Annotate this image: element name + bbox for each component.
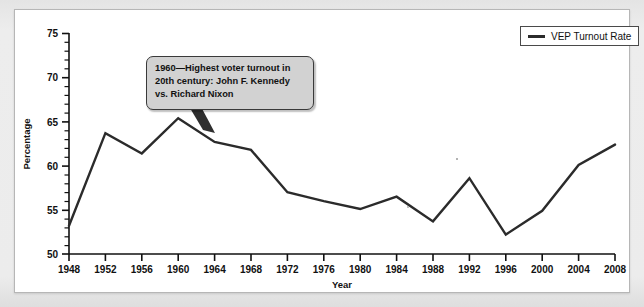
x-tick-label: 1980	[349, 264, 372, 275]
chart-legend: VEP Turnout Rate	[520, 26, 639, 46]
y-axis-ticks	[62, 34, 69, 255]
x-axis-title: Year	[332, 279, 352, 290]
y-axis-tick-labels: 75 70 65 60 55 50	[47, 28, 59, 260]
x-tick-label: 1964	[203, 264, 226, 275]
x-tick-label: 1960	[167, 264, 190, 275]
y-tick-label: 55	[47, 205, 59, 216]
x-axis-ticks	[69, 254, 615, 261]
data-series-vep-turnout-rate	[69, 118, 615, 234]
legend-line-swatch	[528, 35, 545, 38]
scan-speck	[456, 158, 458, 160]
x-tick-label: 2004	[567, 264, 590, 275]
x-tick-label: 2008	[604, 264, 627, 275]
legend-label: VEP Turnout Rate	[551, 31, 631, 42]
x-tick-label: 1996	[495, 264, 518, 275]
y-tick-label: 60	[47, 161, 59, 172]
x-tick-label: 1948	[58, 264, 81, 275]
x-tick-label: 1976	[313, 264, 336, 275]
x-tick-label: 1988	[422, 264, 445, 275]
x-tick-label: 1972	[276, 264, 299, 275]
line-chart-plot: 75 70 65 60 55 50	[15, 10, 629, 292]
annotation-line-1: 1960—Highest voter turnout in	[155, 62, 306, 75]
x-tick-label: 1956	[131, 264, 154, 275]
scan-speck	[407, 206, 409, 208]
y-tick-label: 75	[47, 28, 59, 39]
annotation-line-3: vs. Richard Nixon	[155, 88, 306, 101]
x-tick-label: 1968	[240, 264, 263, 275]
annotation-text: 1960—Highest voter turnout in 20th centu…	[155, 62, 306, 102]
annotation-callout: 1960—Highest voter turnout in 20th centu…	[146, 56, 314, 110]
y-tick-label: 50	[47, 249, 59, 260]
x-axis-tick-labels: 1948 1952 1956 1960 1964 1968 1972 1976 …	[58, 264, 627, 275]
x-tick-label: 2000	[531, 264, 554, 275]
y-axis-title: Percentage	[21, 118, 32, 169]
page-background: 75 70 65 60 55 50	[0, 0, 644, 307]
annotation-line-2: 20th century: John F. Kennedy	[155, 75, 306, 88]
y-tick-label: 70	[47, 72, 59, 83]
y-tick-label: 65	[47, 117, 59, 128]
x-tick-label: 1984	[385, 264, 408, 275]
x-tick-label: 1952	[94, 264, 117, 275]
x-tick-label: 1992	[458, 264, 481, 275]
chart-panel: 75 70 65 60 55 50	[14, 9, 630, 293]
